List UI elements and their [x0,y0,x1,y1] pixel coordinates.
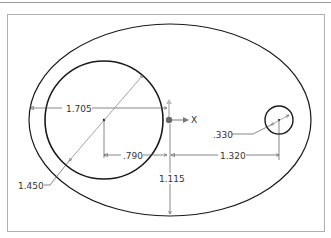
dim-790[interactable]: .790 [104,120,167,161]
svg-text:.330: .330 [213,130,233,140]
dim-1705[interactable]: 1.705 [30,103,167,114]
svg-text:1.320: 1.320 [220,151,246,161]
x-axis-label: X [191,115,197,125]
dim-330[interactable]: .330 [213,115,289,140]
svg-text:1.115: 1.115 [159,174,185,184]
origin-axis-indicator [166,99,189,123]
svg-text:1.705: 1.705 [66,104,92,114]
dim-1320[interactable]: 1.320 [171,120,279,161]
svg-text:1.450: 1.450 [18,181,44,191]
dim-1115[interactable]: 1.115 [158,124,185,214]
svg-text:.790: .790 [123,151,143,161]
sketch-canvas[interactable]: X 1.705 1.450 .790 1.320 .330 1.115 [0,0,331,238]
